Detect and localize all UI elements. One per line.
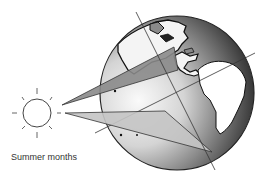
earth-globe [100,16,254,170]
diagram-canvas: Summer months [0,0,269,184]
sun-icon [12,88,61,138]
caption-label: Summer months [11,152,77,162]
